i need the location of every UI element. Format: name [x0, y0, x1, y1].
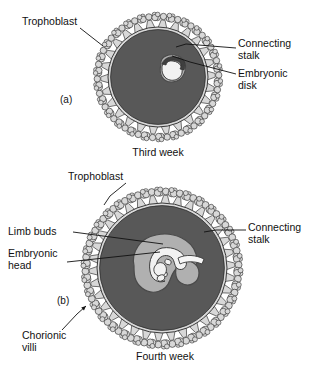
- chorionic-villus-bud: [87, 235, 92, 240]
- chorionic-villus-bud: [234, 239, 239, 244]
- chorionic-villus-lobe: [146, 14, 152, 20]
- chorionic-villus-lobe: [96, 90, 102, 96]
- figure-canvas: TrophoblastConnectingstalkEmbryonicdisk(…: [0, 0, 316, 368]
- chorionic-villus-bud: [81, 263, 86, 268]
- chorionic-villus-lobe: [213, 57, 219, 63]
- label-embryonic-disk-a-line2: disk: [238, 79, 257, 91]
- chorionic-villus-lobe: [164, 134, 170, 140]
- chorionic-villus-lobe: [216, 72, 222, 78]
- chorionic-villus-bud: [100, 317, 105, 322]
- chorionic-villus-bud: [215, 94, 220, 99]
- chorionic-villus-bud: [155, 12, 160, 17]
- chorionic-villus-bud: [182, 18, 187, 23]
- chorionic-villus-bud: [238, 268, 243, 273]
- embryo-development-figure: TrophoblastConnectingstalkEmbryonicdisk(…: [0, 0, 316, 368]
- chorionic-villus-bud: [237, 253, 242, 258]
- chorionic-villus-lobe: [132, 18, 138, 24]
- chorionic-villus-bud: [122, 335, 127, 340]
- chorionic-villus-bud: [106, 113, 111, 118]
- label-limb-buds-b: Limb buds: [8, 225, 56, 237]
- chorionic-villus-bud: [112, 30, 117, 35]
- chorionic-villus-bud: [179, 342, 184, 347]
- label-connecting-stalk-a-line2: stalk: [238, 49, 260, 61]
- chorionic-villus-lobe: [178, 130, 184, 136]
- chorionic-villus-bud: [82, 278, 87, 283]
- chorionic-villus-bud: [136, 340, 141, 345]
- chorionic-vesicle-a: [93, 12, 222, 142]
- chorionic-villus-bud: [92, 305, 97, 310]
- chorionic-cavity-a: [111, 30, 206, 125]
- chorionic-villus-bud: [232, 296, 237, 301]
- chorionic-villus-bud: [183, 191, 188, 196]
- chorionic-villus-lobe: [208, 44, 214, 50]
- caption-fourth-week: Fourth week: [136, 350, 195, 362]
- chorionic-villus-bud: [124, 21, 129, 26]
- chorionic-villus-bud: [94, 222, 99, 227]
- chorionic-villus-bud: [110, 327, 115, 332]
- chorionic-villus-bud: [94, 86, 99, 91]
- label-connecting-stalk-b: Connecting: [248, 221, 301, 233]
- chorionic-villus-bud: [164, 344, 169, 349]
- chorionic-villus-bud: [217, 64, 222, 69]
- chorionic-villus-bud: [159, 137, 164, 142]
- chorionic-villus-bud: [225, 309, 230, 314]
- chorionic-villus-bud: [102, 42, 107, 47]
- label-chorionic-villi-b-line2: villi: [22, 341, 37, 353]
- chorionic-villus-bud: [205, 36, 210, 41]
- caption-third-week: Third week: [132, 146, 184, 158]
- embryonic-head-b: [154, 263, 167, 277]
- panel-label-a: (a): [60, 94, 72, 105]
- chorionic-villus-bud: [216, 320, 221, 325]
- chorionic-villus-bud: [197, 196, 202, 201]
- chorionic-villus-bud: [174, 134, 179, 139]
- label-embryonic-disk-a: Embryonic: [238, 67, 288, 79]
- chorionic-villus-bud: [169, 188, 174, 193]
- chorionic-villus-bud: [167, 13, 172, 18]
- chorionic-villus-bud: [83, 249, 88, 254]
- chorionic-villus-bud: [96, 56, 101, 61]
- chorionic-villus-bud: [205, 330, 210, 335]
- chorionic-villus-bud: [236, 282, 241, 287]
- chorionic-villus-lobe: [102, 104, 108, 110]
- leader-trophoblast-a: [80, 28, 103, 46]
- chorionic-villus-bud: [140, 189, 145, 194]
- chorionic-villus-bud: [103, 211, 108, 216]
- label-chorionic-villi-b: Chorionic: [22, 329, 66, 341]
- leader-chorionic-villi-b: [62, 306, 86, 330]
- chorionic-villus-lobe: [160, 13, 166, 19]
- chorionic-villus-bud: [93, 71, 98, 76]
- label-trophoblast-a: Trophoblast: [22, 15, 77, 27]
- chorionic-villus-bud: [117, 124, 122, 129]
- chorionic-villus-bud: [99, 100, 104, 105]
- chorionic-villus-bud: [200, 119, 205, 124]
- label-embryonic-head-b-line2: head: [8, 259, 32, 271]
- chorionic-villus-lobe: [149, 134, 155, 140]
- chorionic-villus-bud: [209, 107, 214, 112]
- chorionic-villus-bud: [188, 128, 193, 133]
- chorionic-villus-lobe: [94, 76, 100, 82]
- chorionic-villus-bud: [209, 204, 214, 209]
- panel-label-b: (b): [57, 295, 69, 306]
- chorionic-villus-bud: [150, 344, 155, 349]
- chorionic-villus-bud: [114, 201, 119, 206]
- chorionic-villus-bud: [218, 79, 223, 84]
- chorionic-villus-bud: [137, 15, 142, 20]
- label-connecting-stalk-a: Connecting: [238, 37, 291, 49]
- chorionic-villus-bud: [144, 136, 149, 141]
- chorionic-villus-bud: [213, 49, 218, 54]
- chorionic-villus-bud: [158, 187, 163, 192]
- label-connecting-stalk-b-line2: stalk: [248, 233, 270, 245]
- label-trophoblast-b: Trophoblast: [68, 170, 123, 182]
- label-embryonic-head-b: Embryonic: [8, 247, 58, 259]
- chorionic-villus-bud: [127, 194, 132, 199]
- chorionic-villus-bud: [130, 132, 135, 137]
- chorionic-villus-bud: [219, 214, 224, 219]
- chorionic-villus-bud: [194, 26, 199, 31]
- chorionic-villus-bud: [85, 292, 90, 297]
- chorionic-villus-bud: [192, 337, 197, 342]
